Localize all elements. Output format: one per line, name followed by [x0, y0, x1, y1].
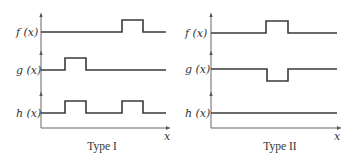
signal-label-h: h (x): [185, 107, 210, 120]
axis-arrow-icon: [39, 13, 42, 18]
panel-type-2: x f (x) g (x) h (x) Type II: [184, 13, 341, 154]
signal-f-waveform: [211, 21, 337, 33]
x-axis-label: x: [334, 130, 341, 143]
signal-g-waveform: [211, 69, 337, 81]
axis-arrow-icon: [209, 92, 212, 97]
waveform-diagram: x f (x) g (x) h (x) Type I x f (x) g (x)…: [0, 0, 355, 163]
signal-label-h: h (x): [16, 107, 41, 120]
signal-label-f: f (x): [15, 26, 38, 39]
signal-label-g: g (x): [185, 63, 210, 76]
signal-h-waveform: [41, 101, 166, 113]
axis-arrow-icon: [39, 92, 42, 97]
panel-caption: Type II: [263, 140, 297, 153]
signal-g-waveform: [41, 58, 166, 70]
panel-caption: Type I: [87, 140, 117, 153]
panel-type-1: x f (x) g (x) h (x) Type I: [15, 13, 171, 154]
signal-label-g: g (x): [16, 64, 41, 77]
axis-arrow-icon: [209, 13, 212, 18]
signal-f-waveform: [41, 20, 166, 32]
signal-label-f: f (x): [184, 27, 207, 40]
x-axis-label: x: [164, 130, 171, 143]
axis-arrow-icon: [39, 51, 42, 56]
axis-arrow-icon: [209, 51, 212, 56]
